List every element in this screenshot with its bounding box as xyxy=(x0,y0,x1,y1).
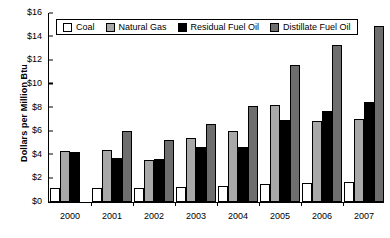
legend-entry: Residual Fuel Oil xyxy=(178,22,260,32)
x-axis-tick xyxy=(259,202,260,206)
x-tick-label: 2003 xyxy=(186,211,206,221)
distillate-fuel-oil-swatch xyxy=(270,23,279,32)
legend-entry: Natural Gas xyxy=(106,22,167,32)
x-axis-tick xyxy=(343,202,344,206)
x-axis-tick xyxy=(301,202,302,206)
residual-fuel-oil-swatch xyxy=(178,23,187,32)
legend-label: Natural Gas xyxy=(119,22,167,32)
y-tick-label: $12 xyxy=(27,54,42,64)
legend-label: Distillate Fuel Oil xyxy=(283,22,351,32)
x-tick-label: 2001 xyxy=(102,211,122,221)
bar-residual xyxy=(322,111,332,202)
y-tick-label: $6 xyxy=(32,125,42,135)
legend-label: Coal xyxy=(76,22,95,32)
bar-residual xyxy=(364,102,374,202)
bar-distillate xyxy=(206,124,216,202)
y-tick-label: $10 xyxy=(27,77,42,87)
natural-gas-swatch xyxy=(106,23,115,32)
bar-natural-gas xyxy=(186,138,196,202)
bar-group: 2003 xyxy=(175,13,217,202)
bar-group: 2007 xyxy=(343,13,385,202)
bar-residual xyxy=(280,120,290,202)
bar-group: 2006 xyxy=(301,13,343,202)
x-axis-tick xyxy=(91,202,92,206)
legend-label: Residual Fuel Oil xyxy=(191,22,260,32)
bar-group: 2005 xyxy=(259,13,301,202)
bar-natural-gas xyxy=(354,119,364,202)
bar-coal xyxy=(50,188,60,202)
legend-entry: Distillate Fuel Oil xyxy=(270,22,351,32)
bar-distillate xyxy=(164,140,174,202)
x-tick-label: 2004 xyxy=(228,211,248,221)
bar-residual xyxy=(70,152,80,202)
bar-coal xyxy=(92,188,102,202)
coal-swatch xyxy=(63,23,72,32)
chart-legend: CoalNatural GasResidual Fuel OilDistilla… xyxy=(56,19,358,35)
y-tick-label: $14 xyxy=(27,30,42,40)
bar-natural-gas xyxy=(60,151,70,202)
x-tick-label: 2002 xyxy=(144,211,164,221)
x-axis-tick xyxy=(175,202,176,206)
x-axis-tick xyxy=(133,202,134,206)
y-tick-label: $16 xyxy=(27,7,42,17)
bar-coal xyxy=(176,187,186,202)
x-axis-tick xyxy=(217,202,218,206)
bar-distillate xyxy=(374,26,384,202)
bar-natural-gas xyxy=(228,131,238,202)
bar-natural-gas xyxy=(102,150,112,202)
bar-group: 2004 xyxy=(217,13,259,202)
x-tick-label: 2005 xyxy=(270,211,290,221)
bar-coal xyxy=(134,188,144,202)
bar-group: 2001 xyxy=(91,13,133,202)
bar-residual xyxy=(154,159,164,202)
y-tick-label: $2 xyxy=(32,172,42,182)
bar-distillate xyxy=(248,106,258,202)
bar-natural-gas xyxy=(270,105,280,202)
bar-residual xyxy=(238,147,248,202)
bar-chart: Dollars per Million Btu $0$2$4$6$8$10$12… xyxy=(0,0,390,238)
bar-coal xyxy=(344,182,354,202)
x-tick-label: 2007 xyxy=(354,211,374,221)
y-tick-label: $4 xyxy=(32,148,42,158)
y-tick-label: $8 xyxy=(32,101,42,111)
bar-residual xyxy=(196,147,206,202)
bar-coal xyxy=(218,186,228,202)
x-tick-label: 2000 xyxy=(60,211,80,221)
bar-distillate xyxy=(332,45,342,202)
bar-natural-gas xyxy=(144,160,154,202)
legend-entry: Coal xyxy=(63,22,95,32)
bar-natural-gas xyxy=(312,121,322,202)
bar-coal xyxy=(260,184,270,202)
bar-group: 2000 xyxy=(49,13,91,202)
bar-distillate xyxy=(290,65,300,202)
bar-residual xyxy=(112,158,122,202)
bar-coal xyxy=(302,183,312,202)
y-tick-label: $0 xyxy=(32,196,42,206)
bar-group: 2002 xyxy=(133,13,175,202)
bar-distillate xyxy=(122,131,132,202)
x-tick-label: 2006 xyxy=(312,211,332,221)
plot-area: $0$2$4$6$8$10$12$14$16 20002001200220032… xyxy=(48,13,384,203)
